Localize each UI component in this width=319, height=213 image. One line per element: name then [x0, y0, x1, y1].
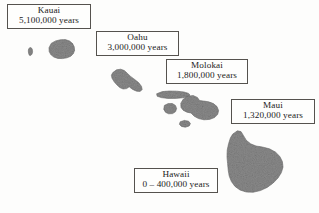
island-niihau — [28, 48, 32, 56]
island-lanai — [164, 104, 177, 114]
island-kauai — [49, 40, 75, 59]
label-box-oahu: Oahu 3,000,000 years — [96, 31, 179, 56]
label-box-hawaii: Hawaii 0 – 400,000 years — [134, 168, 218, 193]
island-maui — [181, 96, 219, 120]
island-kahoolawe — [179, 120, 190, 127]
island-big-island — [227, 131, 283, 192]
hawaii-island-age-map: Kauai 5,100,000 years Oahu 3,000,000 yea… — [0, 0, 319, 213]
label-age-kauai: 5,100,000 years — [12, 16, 86, 26]
label-age-maui: 1,320,000 years — [236, 111, 310, 121]
label-age-oahu: 3,000,000 years — [101, 43, 174, 53]
label-box-kauai: Kauai 5,100,000 years — [7, 4, 91, 29]
island-oahu — [111, 69, 142, 91]
label-box-molokai: Molokai 1,800,000 years — [166, 59, 248, 84]
label-box-maui: Maui 1,320,000 years — [231, 99, 315, 124]
label-age-molokai: 1,800,000 years — [171, 71, 243, 81]
label-age-hawaii: 0 – 400,000 years — [139, 180, 213, 190]
island-molokai — [157, 91, 190, 98]
